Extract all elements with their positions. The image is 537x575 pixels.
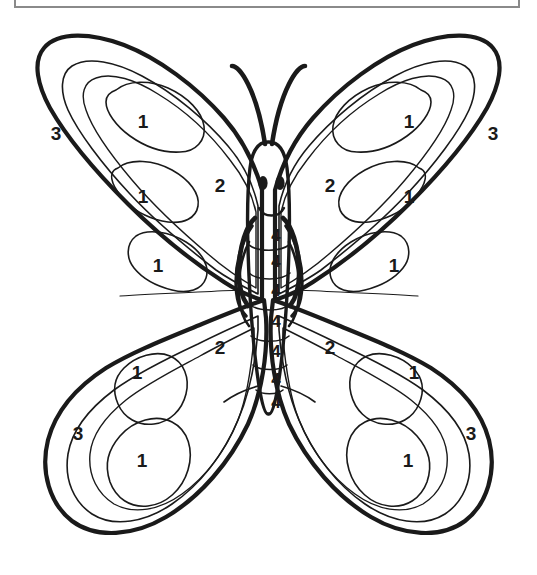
number-label-rlw-top-1: 1 bbox=[409, 363, 420, 382]
body-segment-divider-1 bbox=[249, 245, 289, 250]
number-label-rlw-inner-2: 2 bbox=[325, 338, 336, 357]
right-upper-wing-outline bbox=[275, 36, 500, 300]
left-lower-wing-spot-2 bbox=[107, 418, 190, 506]
number-label-lw-top-1: 1 bbox=[138, 112, 149, 131]
number-label-body-seg-5: 4 bbox=[271, 343, 280, 360]
number-label-body-seg-2: 4 bbox=[271, 253, 280, 270]
left-upper-wing-outline bbox=[37, 36, 262, 300]
number-label-rlw-bot-1: 1 bbox=[403, 451, 414, 470]
right-eye bbox=[275, 176, 284, 190]
left-lower-wing-spot-1 bbox=[115, 354, 188, 425]
number-label-body-seg-1: 4 bbox=[271, 227, 280, 244]
number-label-llw-bot-1: 1 bbox=[137, 451, 148, 470]
number-label-rw-edge-3: 3 bbox=[488, 124, 499, 143]
right-lower-wing-spot-2 bbox=[347, 418, 430, 506]
number-label-lw-mid-1: 1 bbox=[138, 187, 149, 206]
body-tail-left bbox=[224, 386, 258, 402]
number-label-lw-edge-3: 3 bbox=[51, 124, 62, 143]
number-label-llw-top-1: 1 bbox=[132, 363, 143, 382]
number-label-rlw-edge-3: 3 bbox=[466, 424, 477, 443]
butterfly-illustration bbox=[0, 0, 537, 575]
number-label-body-seg-4: 4 bbox=[271, 313, 280, 330]
number-label-lw-bot-1: 1 bbox=[153, 256, 164, 275]
left-lower-wing-inner-contour-2 bbox=[90, 328, 254, 510]
number-label-llw-inner-2: 2 bbox=[215, 338, 226, 357]
body-tail-right bbox=[281, 386, 315, 402]
worksheet-page: 1111111111222233334444444 bbox=[0, 0, 537, 575]
number-label-rw-inner-2: 2 bbox=[325, 176, 336, 195]
body-segment-divider-2 bbox=[249, 273, 290, 279]
number-label-body-seg-7: 4 bbox=[271, 394, 280, 411]
left-eye bbox=[258, 176, 267, 190]
number-label-rw-top-1: 1 bbox=[404, 112, 415, 131]
right-lower-wing-inner-contour-2 bbox=[283, 328, 447, 510]
number-label-rw-mid-1: 1 bbox=[404, 187, 415, 206]
number-label-rw-bot-1: 1 bbox=[389, 256, 400, 275]
right-lower-wing-outline bbox=[271, 300, 492, 533]
left-lower-wing-outline bbox=[45, 300, 266, 533]
number-label-body-seg-3: 4 bbox=[271, 282, 280, 299]
number-label-body-seg-6: 4 bbox=[271, 371, 280, 388]
number-label-lw-inner-2: 2 bbox=[215, 176, 226, 195]
number-label-llw-edge-3: 3 bbox=[73, 424, 84, 443]
